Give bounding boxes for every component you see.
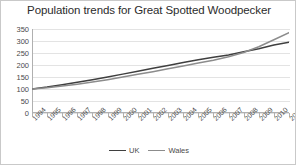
- legend-swatch-icon: [148, 150, 165, 151]
- y-axis-tick-label: 300: [3, 37, 29, 46]
- legend-label: Wales: [168, 146, 189, 155]
- series-line-wales: [32, 33, 289, 89]
- y-axis-tick-label: 100: [3, 85, 29, 94]
- chart-title: Population trends for Great Spotted Wood…: [1, 4, 296, 16]
- y-axis-tick-label: 200: [3, 61, 29, 70]
- legend-label: UK: [129, 146, 139, 155]
- plot-area-wrapper: 050100150200250300350: [1, 27, 296, 117]
- legend-item-uk[interactable]: UK: [109, 146, 139, 155]
- y-axis-tick-label: 350: [3, 25, 29, 34]
- y-axis-tick-label: 0: [3, 109, 29, 118]
- series-lines: [32, 29, 289, 113]
- chart-legend: UKWales: [1, 144, 296, 156]
- y-axis-labels: 050100150200250300350: [1, 29, 29, 113]
- legend-swatch-icon: [109, 150, 126, 151]
- x-axis-labels: 1994199519961997199819992000200120022003…: [32, 117, 289, 145]
- y-axis-tick-label: 150: [3, 73, 29, 82]
- y-axis-tick-label: 250: [3, 49, 29, 58]
- legend-item-wales[interactable]: Wales: [148, 146, 189, 155]
- chart-figure: Population trends for Great Spotted Wood…: [0, 0, 296, 165]
- y-axis-tick-label: 50: [3, 97, 29, 106]
